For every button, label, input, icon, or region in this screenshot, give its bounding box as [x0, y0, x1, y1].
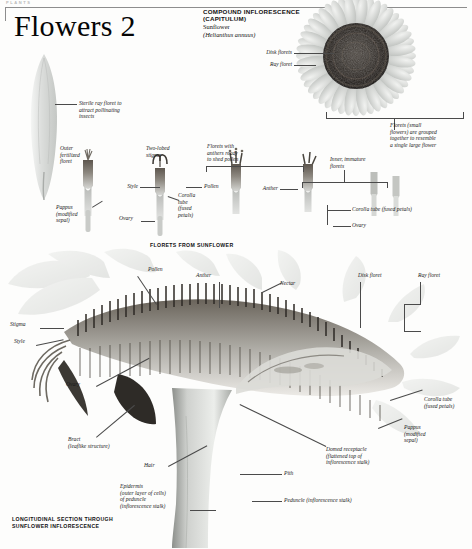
page-title: Flowers 2 [14, 10, 136, 42]
leader-style [140, 187, 160, 188]
leader-corolla-tube-right [327, 210, 351, 211]
leader-anther-row [280, 189, 298, 190]
longitudinal-section-image [0, 248, 472, 549]
illustration-page: PLANTS Flowers 2 COMPOUND INFLORESCENCE … [0, 0, 472, 549]
leader-peduncle-section [252, 501, 282, 502]
label-disk-florets: Disk florets [236, 49, 292, 56]
label-pappus-section: Pappus (modified sepal) [404, 424, 454, 444]
leader-sterile-ray-floret [55, 104, 77, 105]
running-head: PLANTS [6, 0, 32, 5]
label-corolla-tube-mid: Corolla tube (fused petals) [178, 192, 218, 218]
label-anther-row: Anther [240, 185, 278, 192]
label-nectar-section: Nectar [280, 280, 318, 287]
leader-ovary-row [141, 221, 155, 222]
leader-corolla-tube-right-tick [327, 205, 328, 225]
leader-disk-floret-section [360, 282, 361, 328]
bracket-ray-floret-section [404, 304, 421, 332]
label-pollen-row: Pollen [204, 183, 234, 190]
label-inner-immature: Inner, immature florets [330, 156, 402, 169]
label-stigma-section: Stigma [10, 321, 50, 328]
label-ray-floret-section: Ray floret [418, 272, 462, 279]
caption-longitudinal-section: LONGITUDINAL SECTION THROUGH SUNFLOWER I… [12, 516, 212, 530]
label-sterile-ray-floret: Sterile ray floret to attract pollinatin… [79, 100, 175, 120]
label-epidermis-section: Epidermis (outer layer of cells) of pedu… [120, 483, 216, 509]
label-disk-floret-section: Disk floret [358, 272, 406, 279]
label-bract-section: Bract (leaflike structure) [68, 436, 154, 449]
leader-ovary-right [333, 226, 351, 227]
label-pappus-row: Pappus (modified sepal) [56, 204, 106, 224]
leader-epidermis-section [190, 510, 216, 511]
leader-disk-florets [294, 53, 334, 54]
label-domed-receptacle: Domed receptacle (flattened top of inflo… [326, 446, 406, 466]
leader-inner-immature [344, 170, 345, 182]
floret-specimen-2 [153, 155, 167, 236]
sunflower-head-image [300, 6, 412, 110]
leader-pith-section [240, 474, 282, 475]
bracket-anthers-ready [206, 166, 304, 172]
leader-stigma-section [40, 328, 64, 329]
label-anthers-ready: Florets with anthers ready to shed polle… [207, 143, 267, 163]
header-rule-tick [5, 7, 6, 21]
leader-pollen-row [186, 187, 202, 188]
label-pith-section: Pith [284, 470, 314, 477]
label-corolla-tube-section: Corolla tube (fused petals) [424, 396, 472, 409]
label-corolla-tube-right: Corolla tube (fused petals) [352, 206, 472, 213]
label-two-lobed-stigma: Two-lobed stigma [146, 145, 200, 158]
label-ovary-right: Ovary [352, 222, 412, 229]
bracket-inner-immature [302, 182, 388, 188]
leader-anther-section [219, 282, 220, 308]
label-peduncle-section: Peduncle (inflorescence stalk) [284, 497, 424, 504]
label-pollen-section: Pollen [148, 266, 186, 273]
bract-shape [58, 360, 88, 416]
label-outer-fertilized-floret: Outer fertilized floret [60, 145, 106, 165]
bracket-flower-head [326, 112, 464, 119]
leader-ray-floret-section [420, 282, 421, 304]
label-anther-section: Anther [196, 272, 234, 279]
label-style: Style [100, 183, 138, 190]
leader-ray-floret-head [294, 65, 316, 66]
label-ray-floret-head: Ray floret [232, 61, 292, 68]
disk-florets-group [323, 23, 389, 89]
